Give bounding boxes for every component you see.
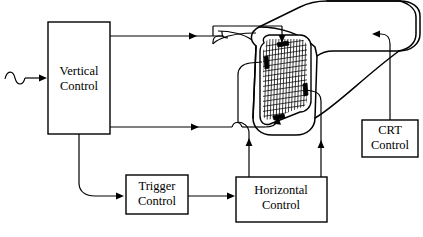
- input-signal-arrow: [25, 75, 47, 82]
- block-horizontal-control[interactable]: Horizontal Control: [236, 177, 327, 222]
- wire-vertical-to-trigger: [79, 134, 124, 199]
- oscilloscope-block-diagram: Vertical Control Trigger Control Horizon…: [0, 0, 423, 237]
- deflection-plate-left: [264, 56, 269, 69]
- block-trigger-control-label-line2: Control: [138, 194, 177, 208]
- block-trigger-control-label-line1: Trigger: [138, 179, 176, 193]
- block-crt-control-label-line2: Control: [371, 138, 410, 152]
- block-trigger-control[interactable]: Trigger Control: [126, 175, 188, 214]
- block-crt-control-label-line1: CRT: [378, 123, 402, 137]
- deflection-plate-right: [303, 83, 308, 96]
- block-crt-control[interactable]: CRT Control: [362, 120, 418, 157]
- crt-tube: [251, 1, 420, 135]
- block-horizontal-control-label-line1: Horizontal: [254, 183, 308, 197]
- crt-flare-bottom-crease: [315, 51, 399, 118]
- wire-trigger-to-horizontal: [188, 193, 235, 200]
- diagram-canvas: Vertical Control Trigger Control Horizon…: [0, 0, 423, 237]
- sine-wave-input-icon: [5, 72, 25, 84]
- block-vertical-control[interactable]: Vertical Control: [48, 22, 110, 134]
- block-horizontal-control-label-line2: Control: [262, 198, 301, 212]
- block-vertical-control-label-line2: Control: [60, 79, 99, 93]
- block-vertical-control-label-line1: Vertical: [60, 64, 99, 78]
